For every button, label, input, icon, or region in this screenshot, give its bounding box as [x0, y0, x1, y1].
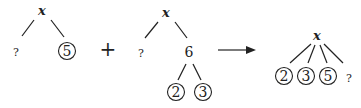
middle-leaf-3: 3 — [199, 84, 208, 100]
middle-leaf-2: 2 — [172, 84, 181, 100]
result-edge-1 — [290, 44, 311, 63]
result-leaf-3: 3 — [302, 68, 311, 84]
plus-operator: + — [100, 37, 117, 61]
result-edge-3 — [320, 45, 327, 63]
left-leaf-5: 5 — [63, 43, 72, 59]
tree-merge-diagram: x ? 5 + x ? 6 2 3 x 2 3 5 — [0, 0, 361, 108]
left-edge-1 — [22, 20, 34, 36]
left-unknown-leaf: ? — [13, 46, 19, 59]
middle-edge-2 — [175, 22, 187, 38]
result-root-label: x — [312, 28, 321, 43]
result-edge-2 — [308, 45, 315, 63]
left-edge-2 — [51, 20, 64, 37]
middle-edge-4 — [193, 64, 201, 80]
left-tree: x ? 5 — [13, 3, 75, 60]
middle-internal-node-6: 6 — [185, 44, 194, 60]
middle-edge-3 — [178, 64, 186, 80]
result-tree: x 2 3 5 ? — [276, 28, 353, 85]
result-unknown-leaf: ? — [346, 72, 352, 85]
middle-tree: x ? 6 2 3 — [138, 5, 211, 101]
left-root-label: x — [37, 3, 46, 18]
middle-edge-1 — [145, 22, 158, 38]
middle-root-label: x — [161, 5, 170, 20]
result-leaf-2: 2 — [280, 68, 289, 84]
result-leaf-5: 5 — [324, 68, 333, 84]
middle-unknown-leaf: ? — [138, 47, 144, 60]
arrow-icon — [218, 46, 256, 54]
result-edge-4 — [324, 44, 343, 63]
